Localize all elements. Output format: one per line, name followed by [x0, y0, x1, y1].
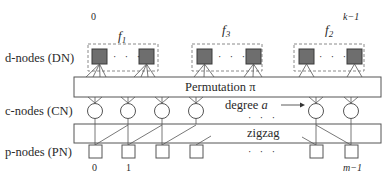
p-nodes — [89, 145, 358, 158]
p-node — [122, 145, 135, 158]
zigzag-label: zigzag — [247, 126, 280, 140]
bottom-index-second: 1 — [126, 162, 131, 173]
zigzag-box — [74, 124, 381, 143]
c-node — [121, 104, 136, 119]
top-index-last: k−1 — [343, 11, 359, 22]
bottom-dots: · · · — [248, 146, 278, 157]
ldpc-zigzag-diagram: 0 k−1 d-nodes (DN) c-nodes (CN) p-nodes … — [0, 0, 390, 175]
c-node — [309, 104, 324, 119]
bottom-index-last: m−1 — [343, 162, 362, 173]
degree-label: degree a — [225, 98, 268, 112]
row-label-p-nodes: p-nodes (PN) — [5, 145, 72, 159]
d-node — [197, 49, 212, 64]
row-label-c-nodes: c-nodes (CN) — [5, 104, 73, 118]
c-node — [88, 104, 103, 119]
middle-dots: · · · — [248, 112, 278, 123]
group-dots: · · · — [319, 51, 349, 62]
c-nodes — [88, 104, 359, 119]
group-label-f2: f2 — [325, 22, 334, 39]
p-node — [310, 145, 323, 158]
c-node — [155, 104, 170, 119]
permutation-label: Permutation π — [185, 80, 256, 94]
d-node — [246, 49, 261, 64]
c-node-edges — [88, 97, 358, 103]
row-label-d-nodes: d-nodes (DN) — [5, 51, 74, 65]
group-dots: · · · — [218, 51, 248, 62]
c-node — [189, 104, 204, 119]
group-label-f3: f3 — [222, 22, 231, 39]
group-label-f1: f1 — [118, 28, 126, 45]
svg-text:f2: f2 — [325, 22, 334, 39]
bottom-index-first: 0 — [92, 162, 97, 173]
p-node — [156, 145, 169, 158]
d-node — [299, 49, 314, 64]
p-node — [190, 145, 203, 158]
c-node — [344, 104, 359, 119]
group-dots: · · · — [113, 51, 143, 62]
svg-text:f3: f3 — [222, 22, 231, 39]
top-index-first: 0 — [91, 11, 96, 22]
p-node — [89, 145, 102, 158]
d-node — [92, 49, 107, 64]
d-node — [347, 49, 362, 64]
svg-text:f1: f1 — [118, 28, 126, 45]
degree-arrow-icon — [281, 103, 305, 108]
p-node — [345, 145, 358, 158]
